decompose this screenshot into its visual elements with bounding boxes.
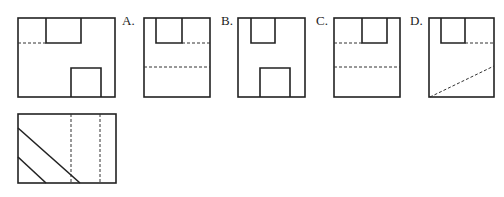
option-b-bottom-notch xyxy=(260,68,290,97)
option-a-top-notch xyxy=(156,18,182,43)
option-c[interactable]: C. xyxy=(316,13,400,97)
option-c-label: C. xyxy=(316,13,328,28)
three-view-diagram: A. B. C. D. xyxy=(0,0,504,197)
option-b-label: B. xyxy=(221,13,233,28)
option-a[interactable]: A. xyxy=(122,13,210,97)
option-c-top-notch xyxy=(362,18,387,43)
option-b-outline xyxy=(238,18,305,97)
option-d-label: D. xyxy=(410,13,423,28)
option-d-outline xyxy=(429,18,494,97)
option-d-top-notch xyxy=(441,18,465,43)
option-d[interactable]: D. xyxy=(410,13,494,97)
option-b[interactable]: B. xyxy=(221,13,305,97)
top-view-outline xyxy=(18,114,116,183)
front-view-top-notch xyxy=(46,18,81,43)
option-a-label: A. xyxy=(122,13,135,28)
option-a-outline xyxy=(144,18,210,97)
front-view-bottom-notch xyxy=(71,68,101,97)
top-view-diagonal-2 xyxy=(18,157,46,183)
option-c-outline xyxy=(334,18,400,97)
top-view xyxy=(18,114,116,183)
front-view xyxy=(18,18,115,97)
option-b-top-notch xyxy=(251,18,275,43)
option-d-hidden-diagonal xyxy=(430,66,494,97)
